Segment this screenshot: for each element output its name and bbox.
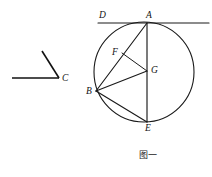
angle-upper-ray (42, 51, 59, 78)
angle-figure-group (12, 51, 59, 78)
figure-drawing-canvas (0, 0, 212, 177)
point-label-c: C (62, 74, 68, 84)
point-label-e: E (145, 124, 151, 134)
point-label-f: F (112, 48, 118, 58)
geometry-figure: D A F G B E C 图一 (0, 0, 212, 177)
point-label-g: G (151, 66, 158, 76)
point-label-d: D (99, 11, 106, 21)
point-label-b: B (86, 87, 92, 97)
point-label-a: A (146, 11, 152, 21)
figure-caption: 图一 (139, 148, 157, 161)
segment-b-e (96, 91, 147, 122)
segment-f-g (122, 53, 147, 71)
